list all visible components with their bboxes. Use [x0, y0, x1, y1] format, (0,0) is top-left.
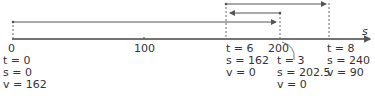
- point-label-t6: t = 6s = 162v = 0: [226, 43, 269, 79]
- tick-100: 100: [134, 43, 155, 55]
- axis-label: s: [362, 26, 368, 38]
- point-label-t8: t = 8s = 240v = 90: [327, 43, 370, 79]
- point-label-t0: t = 0s = 0v = 162: [3, 55, 47, 91]
- point-label-t3: t = 3s = 202.5v = 0: [277, 55, 330, 91]
